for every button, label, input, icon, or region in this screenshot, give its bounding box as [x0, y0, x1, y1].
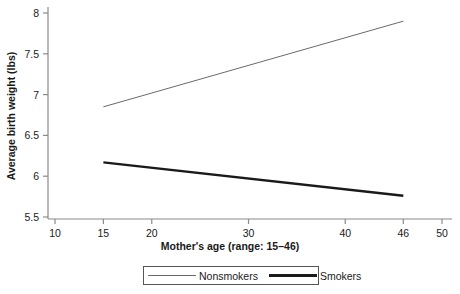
y-tick-label: 8 [0, 7, 39, 19]
chart-legend: NonsmokersSmokers [143, 266, 319, 285]
legend-label-smokers: Smokers [320, 270, 361, 282]
x-tick-label: 50 [436, 227, 448, 239]
y-tick-label: 7.5 [0, 48, 39, 60]
series-line-smokers [103, 162, 403, 195]
legend-swatch-nonsmokers [148, 275, 196, 276]
y-tick-label: 5.5 [0, 211, 39, 223]
series-line-nonsmokers [103, 21, 403, 107]
y-tick-label: 6.5 [0, 129, 39, 141]
legend-item-nonsmokers[interactable]: Nonsmokers [148, 267, 258, 284]
x-tick-label: 40 [339, 227, 351, 239]
legend-label-nonsmokers: Nonsmokers [199, 270, 258, 282]
y-tick-label: 7 [0, 89, 39, 101]
x-axis-title: Mother's age (range: 15–46) [0, 240, 460, 252]
x-tick-label: 30 [243, 227, 255, 239]
x-tick-label: 15 [98, 227, 110, 239]
chart-figure: Average birth weight (lbs) 5.566.577.581… [0, 0, 460, 294]
x-tick-label: 10 [49, 227, 61, 239]
legend-swatch-smokers [269, 274, 317, 276]
x-tick-label: 20 [146, 227, 158, 239]
legend-item-smokers[interactable]: Smokers [269, 267, 361, 284]
y-tick-label: 6 [0, 170, 39, 182]
x-tick-label: 46 [397, 227, 409, 239]
